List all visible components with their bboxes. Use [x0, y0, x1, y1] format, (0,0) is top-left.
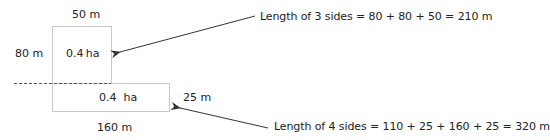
- top-width-label: 50 m: [72, 9, 100, 21]
- arrow-bottom: [180, 108, 268, 128]
- arrow-top: [120, 16, 255, 52]
- bottom-height-label: 25 m: [183, 92, 211, 104]
- annotation-bottom-equation: Length of 4 sides = 110 + 25 + 160 + 25 …: [274, 121, 550, 133]
- annotation-top-equation: Length of 3 sides = 80 + 80 + 50 = 210 m: [260, 11, 492, 23]
- top-area-label: 0.4 ha: [66, 48, 99, 60]
- bottom-width-label: 160 m: [97, 122, 132, 134]
- top-height-label: 80 m: [15, 48, 43, 60]
- bottom-area-label: 0.4 ha: [99, 92, 137, 104]
